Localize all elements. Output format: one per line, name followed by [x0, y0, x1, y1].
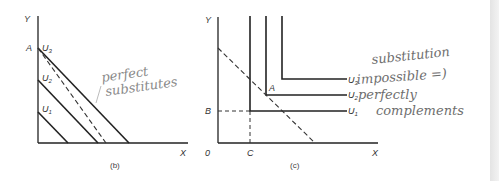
- c-c-label: C: [247, 148, 254, 158]
- b-a-label: A: [25, 43, 32, 53]
- c-curve-u3: [282, 16, 347, 79]
- indifference-curve-diagrams: Y X A U3 U2 U1 (b) perfect substitutes Y…: [0, 0, 499, 181]
- c-origin-label: 0: [205, 148, 210, 158]
- b-y-label: Y: [24, 14, 31, 24]
- c-b-label: B: [205, 106, 211, 116]
- c-handwritten-line1: substitution: [371, 44, 451, 67]
- c-handwritten-line2: impossible =): [356, 66, 447, 87]
- c-a-label: A: [268, 83, 275, 93]
- c-curve-u1: [250, 16, 347, 111]
- c-u1-label: U1: [348, 106, 358, 117]
- panel-b: Y X A U3 U2 U1 (b) perfect substitutes: [24, 14, 188, 170]
- b-u3-label: U3: [42, 43, 53, 54]
- c-x-label: X: [371, 148, 379, 158]
- c-y-label: Y: [205, 15, 212, 25]
- b-x-label: X: [179, 148, 187, 158]
- c-curve-u2: [266, 16, 347, 95]
- c-caption: (c): [290, 161, 300, 170]
- b-handwritten-stroke: [96, 86, 101, 103]
- b-u1-label: U1: [42, 104, 52, 115]
- b-u2-label: U2: [42, 73, 53, 84]
- c-u2-label: U2: [348, 90, 359, 101]
- b-caption: (b): [110, 161, 120, 170]
- c-handwritten-line4: complements: [376, 103, 464, 118]
- panel-c: Y X 0 C B A U3 U2 U1 (c) substitution im…: [205, 15, 464, 170]
- c-handwritten-line3: perfectly: [358, 87, 417, 102]
- b-curve-u1: [38, 112, 68, 143]
- b-budget-line: [38, 48, 106, 143]
